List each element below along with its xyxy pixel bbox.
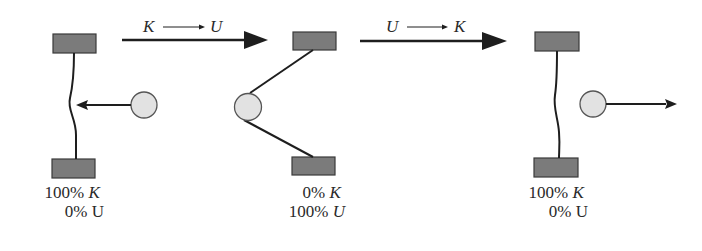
transition-from: U (386, 17, 400, 36)
bottom-anchor-block (52, 159, 95, 178)
ball (580, 91, 606, 117)
state-3-slingshot: 100% K 0% U (528, 32, 677, 221)
ball (131, 92, 157, 118)
top-anchor-block (293, 32, 336, 50)
relaxed-band (69, 53, 76, 159)
state-3-label: 100% K 0% U (528, 183, 588, 221)
transition-to: K (453, 17, 467, 36)
bottom-anchor-block (534, 158, 578, 177)
energy-conversion-diagram: 100% K 0% U K U 0% K 100% U U K (0, 0, 702, 251)
arrowhead-icon (665, 99, 677, 109)
transition-to: U (210, 17, 224, 36)
top-anchor-block (53, 34, 96, 53)
relaxed-band (555, 51, 560, 158)
state-1-slingshot: 100% K 0% U (44, 34, 157, 221)
top-anchor-block (535, 32, 579, 51)
state-1-label: 100% K 0% U (44, 183, 104, 221)
stretched-band-top (250, 50, 313, 93)
transition-from: K (142, 17, 156, 36)
small-arrowhead-icon (442, 25, 448, 30)
bottom-anchor-block (292, 157, 335, 175)
small-arrowhead-icon (199, 25, 205, 30)
stretched-band-bottom (244, 120, 313, 157)
state-2-label: 0% K 100% U (289, 183, 347, 221)
ball (235, 94, 262, 121)
large-arrowhead-icon (244, 31, 268, 49)
state-2-slingshot: 0% K 100% U (235, 32, 347, 221)
large-arrowhead-icon (482, 32, 507, 50)
transition-u-to-k: U K (360, 17, 507, 50)
transition-k-to-u: K U (122, 17, 268, 49)
